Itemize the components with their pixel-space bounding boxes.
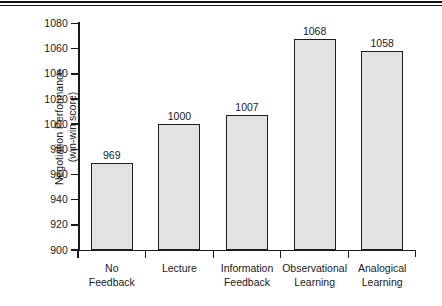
y-axis-tick bbox=[71, 23, 78, 25]
bar-value-label: 1058 bbox=[352, 38, 412, 49]
y-axis-tick-label: 1080 bbox=[44, 18, 68, 29]
y-axis-tick-label: 920 bbox=[50, 219, 68, 230]
y-axis-tick-label: 940 bbox=[50, 194, 68, 205]
y-axis-tick bbox=[71, 199, 78, 201]
bar-value-label: 969 bbox=[82, 150, 142, 161]
y-axis-tick-label: 1020 bbox=[44, 94, 68, 105]
bar-value-label: 1000 bbox=[149, 111, 209, 122]
x-axis-tick bbox=[213, 250, 214, 258]
top-rule-thin bbox=[0, 5, 442, 6]
y-axis-tick-label: 960 bbox=[50, 169, 68, 180]
x-axis-tick bbox=[145, 250, 146, 258]
bar bbox=[226, 115, 268, 250]
bar bbox=[158, 124, 200, 250]
bar-value-label: 1007 bbox=[217, 102, 277, 113]
top-rule-thick bbox=[0, 1, 442, 3]
bar-chart-figure: Negotiation Performance (win-win score) … bbox=[0, 0, 442, 306]
bar bbox=[91, 163, 133, 250]
x-axis-category-label: Analogical Learning bbox=[336, 261, 428, 289]
y-axis-tick-label: 1060 bbox=[44, 43, 68, 54]
y-axis-tick-label: 1000 bbox=[44, 119, 68, 130]
y-axis-tick bbox=[71, 123, 78, 125]
y-axis-tick bbox=[71, 73, 78, 75]
y-axis-tick-label: 980 bbox=[50, 144, 68, 155]
x-axis-tick bbox=[77, 250, 78, 258]
y-axis-tick bbox=[71, 224, 78, 226]
x-axis-tick bbox=[348, 250, 349, 258]
bar-value-label: 1068 bbox=[285, 26, 345, 37]
bar bbox=[294, 39, 336, 250]
y-axis-tick-label: 900 bbox=[50, 245, 68, 256]
y-axis-tick bbox=[71, 149, 78, 151]
y-axis-tick-label: 1040 bbox=[44, 68, 68, 79]
x-axis-end-tick bbox=[415, 250, 417, 257]
y-axis-tick bbox=[71, 48, 78, 50]
x-axis-tick bbox=[280, 250, 281, 258]
y-axis-tick bbox=[71, 174, 78, 176]
y-axis-tick bbox=[71, 98, 78, 100]
bar bbox=[361, 51, 403, 250]
